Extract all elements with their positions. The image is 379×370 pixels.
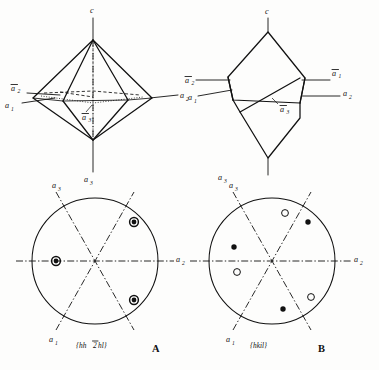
crystallography-figure: c a 2 a 1 a 2 a 3 bbox=[0, 0, 379, 370]
svg-text:1: 1 bbox=[232, 340, 235, 346]
svg-text:2: 2 bbox=[349, 94, 352, 100]
crystal-b-a1bar-label: a 1 bbox=[332, 69, 342, 79]
svg-text:a: a bbox=[180, 91, 184, 100]
projection-a-a3-label: a 3 bbox=[52, 181, 61, 192]
svg-text:a: a bbox=[229, 181, 233, 190]
svg-text:a: a bbox=[176, 255, 180, 264]
crystal-b-a1-ray bbox=[198, 90, 232, 96]
svg-text:hl}: hl} bbox=[98, 341, 107, 350]
svg-text:{hh: {hh bbox=[76, 341, 87, 350]
crystal-a-a2bar-label: a 2 bbox=[11, 84, 21, 94]
svg-text:3: 3 bbox=[89, 180, 93, 186]
svg-text:3: 3 bbox=[88, 117, 92, 123]
svg-text:a: a bbox=[5, 101, 9, 110]
svg-text:a: a bbox=[52, 181, 56, 190]
crystal-b-right-side-edge bbox=[300, 78, 305, 103]
crystal-b-lower-body bbox=[233, 100, 300, 158]
svg-text:a: a bbox=[343, 89, 347, 98]
svg-text:1: 1 bbox=[339, 73, 342, 79]
crystal-b-a1-label: a 1 bbox=[188, 93, 197, 104]
projection-b-pole-5-open bbox=[308, 294, 315, 301]
svg-text:a: a bbox=[11, 84, 15, 93]
projection-b-pole-3-filled bbox=[231, 244, 236, 249]
crystal-b-a3bar-leader bbox=[272, 98, 278, 104]
svg-text:a: a bbox=[280, 105, 284, 114]
svg-text:3: 3 bbox=[223, 178, 227, 184]
crystal-b-a2bar-label: a 2 bbox=[185, 76, 195, 86]
projection-b-form-symbol: {hkil} bbox=[250, 341, 267, 350]
projection-a-pole-upper-right bbox=[130, 218, 139, 227]
crystal-a-a3bar-label: a 3 bbox=[82, 113, 92, 123]
crystal-b-upper-body bbox=[228, 32, 305, 103]
panel-crystal-a: c a 2 a 1 a 2 a 3 bbox=[5, 6, 189, 186]
crystal-b-a3-label: a 3 bbox=[218, 173, 227, 184]
crystal-a-outline-front bbox=[33, 40, 152, 140]
svg-text:2: 2 bbox=[93, 341, 97, 350]
svg-text:a: a bbox=[82, 113, 86, 122]
projection-b-pole-1-open bbox=[282, 210, 289, 217]
svg-text:2: 2 bbox=[192, 80, 195, 86]
crystal-a-edge-lower-right bbox=[93, 100, 128, 140]
svg-text:a: a bbox=[84, 175, 88, 184]
svg-text:2: 2 bbox=[360, 260, 363, 266]
projection-a-pole-lower-right bbox=[130, 296, 139, 305]
svg-text:a: a bbox=[332, 69, 336, 78]
projection-b-a3-label: a 3 bbox=[229, 181, 238, 192]
panel-crystal-b: c a 2 a 1 a 1 a 2 bbox=[185, 7, 352, 184]
crystal-a-c-label: c bbox=[90, 6, 94, 15]
projection-a-caption: A bbox=[152, 343, 160, 354]
projection-a-a1-label: a 1 bbox=[49, 335, 58, 346]
figure-root: c a 2 a 1 a 2 a 3 bbox=[0, 0, 379, 370]
svg-text:2: 2 bbox=[18, 88, 21, 94]
crystal-b-a2-label: a 2 bbox=[343, 89, 352, 100]
svg-text:1: 1 bbox=[194, 98, 197, 104]
projection-b-pole-6-filled bbox=[280, 306, 285, 311]
projection-b-a2-label: a 2 bbox=[354, 255, 363, 266]
svg-text:a: a bbox=[185, 76, 189, 85]
projection-b-pole-4-open bbox=[234, 269, 241, 276]
projection-a-a2-label: a 2 bbox=[176, 255, 185, 266]
panel-projection-b: a 3 a 1 a 2 {hkil} B bbox=[190, 181, 363, 354]
svg-text:3: 3 bbox=[234, 186, 238, 192]
svg-text:a: a bbox=[354, 255, 358, 264]
svg-text:2: 2 bbox=[182, 260, 185, 266]
crystal-a-a1-label: a 1 bbox=[5, 101, 14, 112]
svg-text:3: 3 bbox=[286, 109, 290, 115]
projection-b-pole-2-filled bbox=[305, 219, 310, 224]
crystal-a-hidden-edge-upper bbox=[44, 91, 140, 95]
crystal-a-a3bar-leader bbox=[86, 105, 92, 112]
crystal-a-a2bar-ray bbox=[27, 93, 60, 95]
svg-text:a: a bbox=[49, 335, 53, 344]
svg-text:3: 3 bbox=[57, 186, 61, 192]
svg-text:a: a bbox=[226, 335, 230, 344]
panel-projection-a: a 3 a 1 a 2 {hh 2 hl} A bbox=[16, 181, 185, 354]
crystal-b-a3bar-label: a 3 bbox=[280, 105, 290, 115]
projection-a-form-symbol: {hh 2 hl} bbox=[76, 341, 107, 350]
crystal-b-c-label: c bbox=[265, 7, 269, 16]
projection-b-caption: B bbox=[318, 343, 325, 354]
crystal-b-diagonal-edge bbox=[240, 78, 300, 112]
crystal-a-a3-label: a 3 bbox=[84, 175, 93, 186]
svg-text:1: 1 bbox=[55, 340, 58, 346]
svg-text:1: 1 bbox=[11, 106, 14, 112]
svg-text:a: a bbox=[188, 93, 192, 102]
svg-text:a: a bbox=[218, 173, 222, 182]
projection-b-a1-label: a 1 bbox=[226, 335, 235, 346]
crystal-a-a2-ray bbox=[150, 95, 178, 98]
